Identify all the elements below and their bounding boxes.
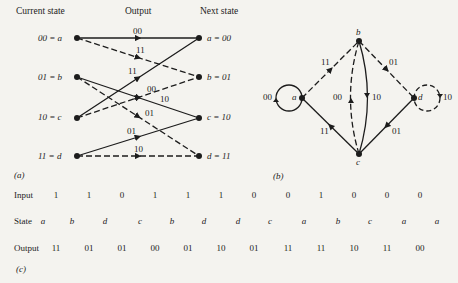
edge-label-c-b: 00	[147, 84, 156, 94]
input-cell: 1	[219, 190, 224, 200]
state-cell: a	[402, 216, 407, 226]
input-cell: 0	[252, 190, 257, 200]
input-cell: 0	[385, 190, 390, 200]
label-b-d: 01	[389, 57, 398, 67]
caption-a: (a)	[14, 170, 25, 180]
edge-label-b-c: 10	[160, 94, 169, 104]
output-cell: 11	[284, 243, 293, 253]
output-cell: 10	[350, 243, 359, 253]
node-d: d	[418, 92, 423, 102]
output-cell: 00	[151, 243, 160, 253]
label-a-b: 11	[321, 57, 330, 67]
input-cell: 1	[153, 190, 158, 200]
edge-label-a-b: 11	[136, 45, 145, 55]
state-cell: a	[302, 216, 307, 226]
output-cell: 01	[85, 243, 94, 253]
label-c-b: 00	[333, 92, 342, 102]
diagram-canvas	[0, 0, 458, 283]
state-cell: b	[70, 216, 75, 226]
caption-b: (b)	[273, 171, 284, 181]
output-row-label: Output	[14, 243, 39, 253]
output-cell: 00	[416, 243, 425, 253]
output-cell: 11	[317, 243, 326, 253]
input-cell: 1	[319, 190, 324, 200]
input-cell: 1	[186, 190, 191, 200]
state-cell: d	[236, 216, 241, 226]
node-a: a	[292, 92, 297, 102]
input-cell: 0	[286, 190, 291, 200]
state-row-label: State	[14, 216, 32, 226]
output-cell: 10	[217, 243, 226, 253]
state-cell: b	[170, 216, 175, 226]
label-d-self: 10	[443, 92, 452, 102]
node-b: b	[356, 27, 361, 37]
state-cell: d	[103, 216, 108, 226]
output-cell: 11	[383, 243, 392, 253]
node-c: c	[356, 157, 360, 167]
input-cell: 1	[87, 190, 92, 200]
edge-label-a-a: 00	[133, 26, 142, 36]
label-c-a: 11	[320, 126, 329, 136]
state-cell: a	[41, 216, 46, 226]
edge-a-b	[77, 38, 199, 77]
edge-label-b-d: 01	[145, 108, 154, 118]
state-cell: a	[435, 216, 440, 226]
state-cell: d	[202, 216, 207, 226]
output-cell: 01	[118, 243, 127, 253]
edge-label-c-a: 11	[128, 66, 137, 76]
label-a-self: 00	[263, 92, 272, 102]
output-cell: 01	[184, 243, 193, 253]
output-cell: 11	[52, 243, 61, 253]
caption-c: (c)	[16, 264, 26, 274]
output-cell: 01	[250, 243, 259, 253]
state-cell: c	[138, 216, 142, 226]
label-b-c: 10	[372, 92, 381, 102]
state-cell: c	[268, 216, 272, 226]
input-cell: 0	[352, 190, 357, 200]
input-row-label: Input	[14, 190, 33, 200]
edge-label-d-c: 01	[127, 126, 136, 136]
input-cell: 0	[418, 190, 423, 200]
state-cell: b	[336, 216, 341, 226]
input-cell: 0	[120, 190, 125, 200]
state-cell: c	[368, 216, 372, 226]
input-cell: 1	[54, 190, 59, 200]
edge-label-d-d: 10	[134, 144, 143, 154]
label-d-c: 01	[392, 126, 401, 136]
